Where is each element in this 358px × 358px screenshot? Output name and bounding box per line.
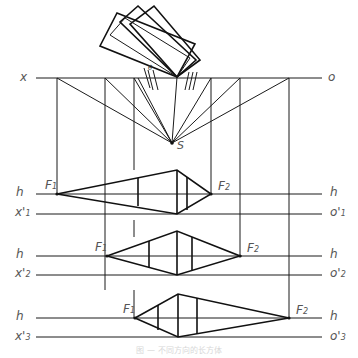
f2-label-row2: F2 (247, 242, 259, 254)
x2-label: x'2 (15, 267, 31, 279)
sight-rays (57, 77, 289, 143)
o2-label: o'2 (330, 267, 346, 279)
station-point (170, 141, 174, 145)
f2-label-row1: F2 (218, 180, 230, 192)
o-axis-label: o (328, 71, 335, 83)
angle-label: θ (148, 64, 152, 72)
o1-label: o'1 (330, 206, 346, 218)
x3-label: x'3 (15, 330, 31, 342)
row-1 (36, 170, 322, 214)
figure-caption: 图 — 不同方向的长方体 (0, 344, 358, 355)
station-point-label: S (177, 140, 184, 151)
projectors (57, 78, 289, 318)
x1-label: x'1 (15, 206, 31, 218)
f2-label-row3: F2 (296, 304, 308, 316)
h-label-right-2: h (330, 248, 338, 260)
h-label-left-1: h (16, 186, 24, 198)
h-label-left-3: h (16, 310, 24, 322)
row-3 (36, 294, 322, 337)
x-axis-label: x (20, 71, 27, 83)
h-label-right-1: h (330, 186, 338, 198)
o3-label: o'3 (330, 330, 346, 342)
h-label-right-3: h (330, 310, 338, 322)
f1-label-row2: F1 (95, 241, 107, 253)
f1-label-row3: F1 (123, 303, 135, 315)
h-label-left-2: h (16, 248, 24, 260)
f1-label-row1: F1 (45, 179, 57, 191)
row-2 (36, 231, 322, 275)
